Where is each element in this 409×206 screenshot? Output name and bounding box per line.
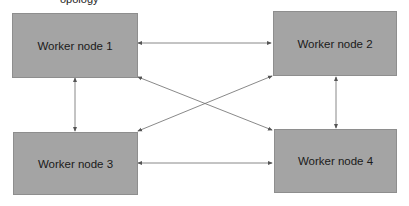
edge-2-3	[138, 76, 272, 131]
node-label: Worker node 4	[298, 155, 373, 167]
node-label: Worker node 1	[37, 40, 112, 52]
node-label: Worker node 3	[38, 158, 113, 170]
worker-node-3: Worker node 3	[13, 132, 138, 195]
worker-node-4: Worker node 4	[274, 129, 397, 193]
node-label: Worker node 2	[297, 38, 372, 50]
worker-node-2: Worker node 2	[273, 11, 397, 76]
worker-node-1: Worker node 1	[12, 13, 138, 78]
